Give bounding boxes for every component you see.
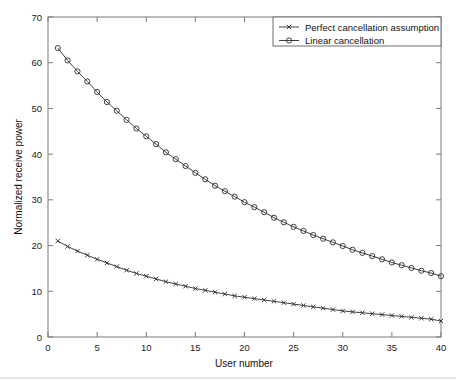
x-tick-label-35: 35 xyxy=(387,342,398,353)
y-tick-label-30: 30 xyxy=(31,194,42,205)
y-tick-label-50: 50 xyxy=(31,103,42,114)
y-tick-label-20: 20 xyxy=(31,240,42,251)
scan-artifact-strip xyxy=(0,377,456,379)
x-tick-label-25: 25 xyxy=(288,342,299,353)
y-tick-label-70: 70 xyxy=(31,12,42,23)
x-tick-label-5: 5 xyxy=(94,342,99,353)
x-tick-label-40: 40 xyxy=(436,342,447,353)
y-axis-title: Normalized receive power xyxy=(13,119,24,235)
normalized-receive-power-line-chart: 0510152025303540 010203040506070 User nu… xyxy=(0,0,456,380)
x-axis-title: User number xyxy=(215,358,273,369)
chart-figure: 0510152025303540 010203040506070 User nu… xyxy=(0,0,456,380)
figure-background xyxy=(0,0,456,380)
legend-label-2: Linear cancellation xyxy=(305,35,384,46)
x-tick-label-30: 30 xyxy=(337,342,348,353)
y-tick-label-60: 60 xyxy=(31,57,42,68)
y-tick-label-40: 40 xyxy=(31,149,42,160)
chart-legend: Perfect cancellation assumptionLinear ca… xyxy=(273,17,441,46)
y-tick-label-10: 10 xyxy=(31,286,42,297)
y-tick-label-0: 0 xyxy=(37,332,42,343)
x-tick-label-0: 0 xyxy=(45,342,50,353)
legend-label-1: Perfect cancellation assumption xyxy=(305,22,439,33)
x-tick-label-10: 10 xyxy=(141,342,152,353)
x-tick-label-20: 20 xyxy=(239,342,250,353)
x-tick-label-15: 15 xyxy=(190,342,201,353)
